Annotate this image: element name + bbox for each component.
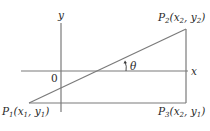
x-axis-label: x: [191, 65, 197, 77]
y-axis-label: y: [57, 9, 65, 21]
point-label-p2: P2(x2, y2): [157, 11, 205, 25]
angle-arrow-icon: [124, 61, 128, 64]
diagram-canvas: y x 0 θ P1(x1, y1) P2(x2, y2) P3(x2, y1): [0, 0, 210, 131]
point-label-p1: P1(x1, y1): [1, 105, 49, 119]
point-label-p3: P3(x2, y1): [157, 105, 205, 119]
segment-p1-p2: [29, 29, 186, 103]
angle-label: θ: [130, 60, 137, 72]
origin-label: 0: [51, 72, 58, 84]
